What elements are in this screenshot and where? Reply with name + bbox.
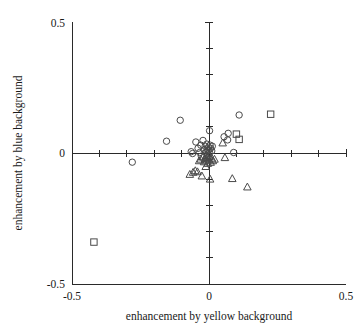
x-axis-title: enhancement by yellow background bbox=[126, 310, 293, 323]
scatter-plot-figure: 0.50-0.5-0.500.5enhancement by yellow ba… bbox=[0, 0, 362, 336]
x-tick-label-right: 0.5 bbox=[339, 290, 354, 302]
y-tick-label-zero: 0 bbox=[59, 147, 65, 159]
data-point-triangle bbox=[221, 154, 229, 161]
data-markers-layer bbox=[91, 111, 274, 245]
data-point-circle bbox=[163, 138, 169, 144]
data-point-triangle bbox=[229, 175, 237, 182]
data-point-circle bbox=[236, 112, 242, 118]
data-point-circle bbox=[225, 130, 231, 136]
data-point-square bbox=[91, 239, 97, 245]
y-axis-title: enhancement by blue background bbox=[12, 75, 25, 230]
plot-canvas: 0.50-0.5-0.500.5enhancement by yellow ba… bbox=[0, 0, 362, 336]
y-tick-label-bottom: -0.5 bbox=[47, 278, 65, 290]
x-tick-label-zero: 0 bbox=[206, 290, 212, 302]
data-point-square bbox=[267, 111, 273, 117]
y-tick-label-top: 0.5 bbox=[51, 17, 66, 29]
data-point-circle bbox=[189, 150, 195, 156]
data-point-triangle bbox=[244, 183, 252, 190]
x-tick-label-left: -0.5 bbox=[63, 290, 81, 302]
data-point-circle bbox=[177, 117, 183, 123]
axis-labels-layer: 0.50-0.5-0.500.5enhancement by yellow ba… bbox=[12, 17, 353, 323]
data-point-triangle bbox=[206, 175, 214, 182]
data-point-circle bbox=[129, 159, 135, 165]
data-point-circle bbox=[206, 128, 212, 134]
